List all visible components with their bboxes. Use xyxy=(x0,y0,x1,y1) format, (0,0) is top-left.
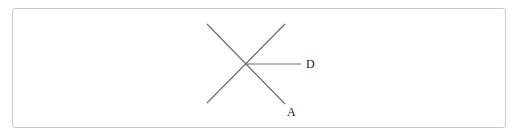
label-a: A xyxy=(287,106,296,118)
diagram-canvas xyxy=(0,0,519,138)
label-d: D xyxy=(306,58,315,70)
